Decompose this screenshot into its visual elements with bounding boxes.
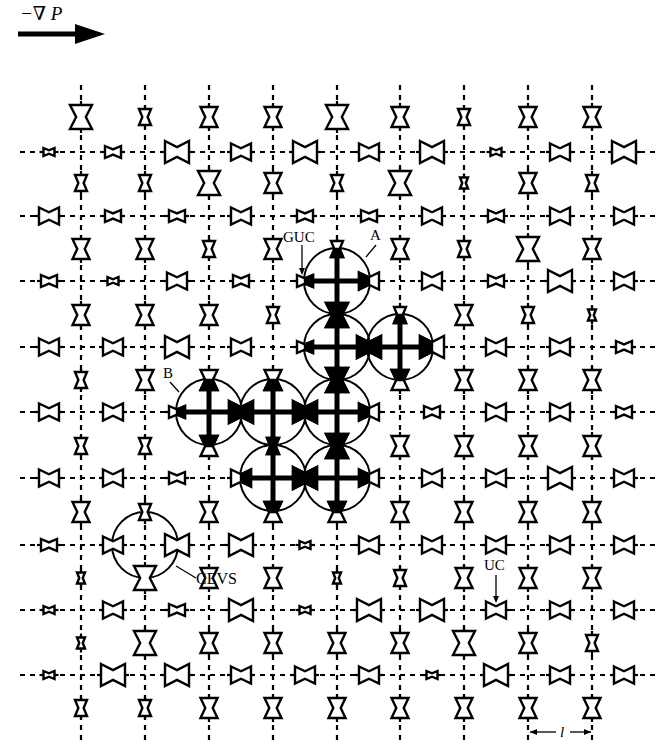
throat-icon	[453, 627, 475, 659]
throat-icon	[546, 602, 574, 619]
throat-icon	[265, 694, 282, 722]
throat-icon	[586, 171, 598, 195]
throat-icon	[101, 146, 125, 158]
throat-icon	[456, 564, 473, 592]
throat-icon	[99, 470, 127, 487]
throat-icon	[456, 498, 473, 526]
throat-icon	[265, 564, 282, 592]
throat-icon	[227, 144, 255, 161]
throat-icon	[75, 171, 87, 195]
throat-icon	[416, 599, 448, 621]
throat-icon	[389, 167, 411, 199]
throat-icon	[392, 103, 409, 131]
throat-icon	[520, 103, 537, 131]
throat-icon	[546, 537, 574, 554]
throat-icon	[139, 171, 151, 195]
throat-icon	[70, 101, 92, 133]
throat-icon	[73, 301, 90, 329]
throat-icon	[520, 366, 537, 394]
throat-icon	[201, 301, 218, 329]
flow-direction-arrow-icon	[18, 24, 105, 44]
throat-icon	[73, 235, 90, 263]
throat-icon	[392, 629, 409, 657]
throat-icon	[520, 694, 537, 722]
throat-icon	[584, 694, 601, 722]
throat-icon	[329, 629, 346, 657]
throat-icon	[610, 208, 638, 225]
throat-icon	[584, 432, 601, 460]
throat-icon	[355, 537, 383, 554]
throat-icon	[75, 368, 87, 392]
throat-icon	[544, 467, 576, 489]
throat-icon	[137, 235, 154, 263]
throat-icon	[544, 270, 576, 292]
throat-icon	[418, 537, 446, 554]
throat-icon	[165, 604, 189, 616]
throat-icon	[357, 210, 381, 222]
throat-icon	[137, 366, 154, 394]
throat-icon	[203, 237, 215, 261]
throat-icon	[97, 664, 129, 686]
cevs-pointer-icon	[176, 566, 196, 578]
throat-icon	[418, 273, 446, 290]
throat-icon	[584, 498, 601, 526]
throat-icon	[99, 339, 127, 356]
a-pointer-icon	[366, 245, 376, 257]
throat-icon	[225, 534, 257, 556]
throat-icon	[265, 235, 282, 263]
throat-icon	[458, 237, 470, 261]
throat-icon	[40, 671, 59, 679]
throat-icon	[416, 141, 448, 163]
throat-icon	[201, 629, 218, 657]
throat-icon	[482, 470, 510, 487]
throat-icon	[584, 366, 601, 394]
throat-icon	[520, 629, 537, 657]
throat-icon	[329, 694, 346, 722]
throat-icon	[484, 275, 508, 287]
throat-icon	[225, 599, 257, 621]
throat-icon	[546, 339, 574, 356]
throat-icon	[265, 629, 282, 657]
guc-label: GUC	[283, 229, 315, 245]
uc-label: UC	[484, 557, 505, 573]
throat-icon	[75, 434, 87, 458]
throat-icon	[227, 339, 255, 356]
throat-icon	[610, 470, 638, 487]
throat-icon	[586, 631, 598, 655]
throat-icon	[482, 602, 510, 619]
throat-icon	[35, 470, 63, 487]
throat-icon	[265, 169, 282, 197]
a-label: A	[370, 227, 381, 243]
throat-icon	[163, 273, 191, 290]
throat-icon	[161, 141, 193, 163]
throat-icon	[331, 171, 343, 195]
throat-icon	[517, 233, 539, 265]
throat-icon	[546, 208, 574, 225]
throat-icon	[227, 208, 255, 225]
throat-icon	[198, 167, 220, 199]
throat-icon	[77, 569, 85, 588]
throat-icon	[229, 275, 253, 287]
throat-icon	[77, 634, 85, 653]
throat-icon	[546, 404, 574, 421]
throat-icon	[333, 569, 341, 588]
throat-icon	[353, 599, 385, 621]
throat-icon	[420, 406, 444, 418]
throat-icon	[161, 336, 193, 358]
throat-icon	[165, 210, 189, 222]
throat-icon	[392, 498, 409, 526]
throat-icon	[610, 667, 638, 684]
throat-icon	[520, 498, 537, 526]
throat-icon	[73, 498, 90, 526]
throat-icon	[546, 144, 574, 161]
throat-icon	[291, 667, 319, 684]
throat-icon	[293, 210, 317, 222]
throat-icon	[40, 148, 59, 156]
throat-icon	[522, 303, 534, 327]
throat-icon	[40, 606, 59, 614]
throat-icon	[296, 541, 315, 549]
throat-icon	[289, 141, 321, 163]
throat-icon	[584, 103, 601, 131]
throat-icon	[139, 696, 151, 720]
throat-icon	[201, 498, 218, 526]
